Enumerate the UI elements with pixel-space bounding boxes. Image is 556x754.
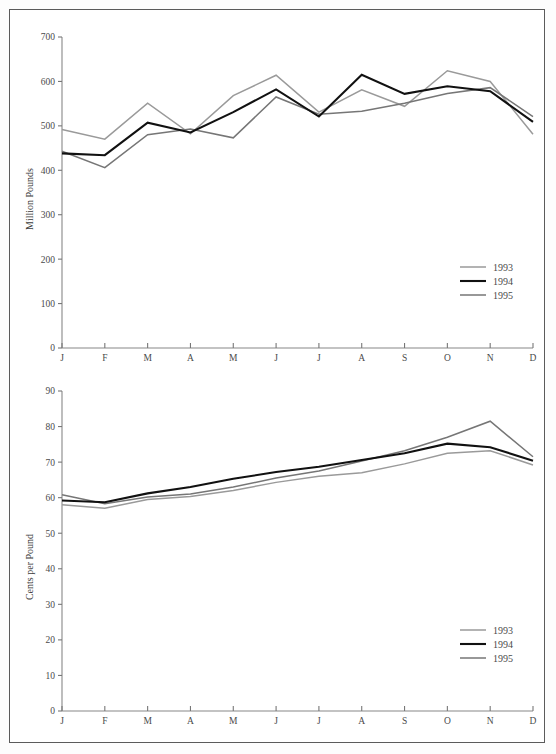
chart-panel-production: 0100200300400500600700JFMAMJJASONDMillio…: [0, 14, 556, 376]
x-axis-tick-label: S: [402, 353, 407, 363]
y-axis-tick-label: 20: [46, 635, 56, 645]
x-axis-tick-label: A: [358, 353, 365, 363]
y-axis-tick-label: 600: [41, 77, 56, 87]
y-axis-tick-label: 0: [50, 343, 55, 353]
y-axis-title: Cents per Pound: [24, 534, 35, 600]
x-axis-tick-label: M: [143, 716, 152, 726]
y-axis-tick-label: 50: [46, 529, 56, 539]
x-axis-tick-label: M: [229, 353, 238, 363]
chart-price-svg: 0102030405060708090JFMAMJJASONDCents per…: [0, 382, 556, 742]
series-line-1995: [62, 421, 533, 503]
y-axis-tick-label: 30: [46, 600, 56, 610]
x-axis-tick-label: O: [444, 716, 451, 726]
x-axis-tick-label: J: [60, 716, 64, 726]
x-axis-tick-label: S: [402, 716, 407, 726]
x-axis-tick-label: J: [274, 353, 278, 363]
x-axis-tick-label: D: [530, 353, 537, 363]
legend-label-1995: 1995: [493, 290, 513, 301]
x-axis-tick-label: N: [487, 353, 494, 363]
y-axis-tick-label: 80: [46, 422, 56, 432]
y-axis-tick-label: 90: [46, 386, 56, 396]
chart-production-svg: 0100200300400500600700JFMAMJJASONDMillio…: [0, 14, 556, 376]
y-axis-tick-label: 500: [41, 121, 56, 131]
x-axis-tick-label: F: [102, 353, 107, 363]
chart-panel-price: 0102030405060708090JFMAMJJASONDCents per…: [0, 382, 556, 742]
x-axis-tick-label: O: [444, 353, 451, 363]
y-axis-tick-label: 70: [46, 458, 56, 468]
legend-label-1993: 1993: [493, 262, 513, 273]
x-axis-tick-label: A: [187, 716, 194, 726]
x-axis-tick-label: N: [487, 716, 494, 726]
y-axis-tick-label: 400: [41, 166, 56, 176]
y-axis-tick-label: 40: [46, 564, 56, 574]
y-axis-tick-label: 60: [46, 493, 56, 503]
x-axis-tick-label: M: [229, 716, 238, 726]
x-axis-tick-label: A: [358, 716, 365, 726]
x-axis-tick-label: D: [530, 716, 537, 726]
x-axis-tick-label: J: [274, 716, 278, 726]
legend-label-1993: 1993: [493, 625, 513, 636]
x-axis-tick-label: J: [317, 716, 321, 726]
y-axis-tick-label: 300: [41, 210, 56, 220]
y-axis-tick-label: 200: [41, 255, 56, 265]
y-axis-tick-label: 0: [50, 706, 55, 716]
y-axis-title: Million Pounds: [24, 168, 35, 230]
y-axis-tick-label: 10: [46, 671, 56, 681]
y-axis-tick-label: 700: [41, 32, 56, 42]
x-axis-tick-label: M: [143, 353, 152, 363]
page-root: 0100200300400500600700JFMAMJJASONDMillio…: [0, 0, 556, 754]
legend-label-1994: 1994: [493, 639, 513, 650]
x-axis-tick-label: J: [60, 353, 64, 363]
series-line-1995: [62, 88, 533, 168]
x-axis-tick-label: A: [187, 353, 194, 363]
x-axis-tick-label: F: [102, 716, 107, 726]
legend-label-1994: 1994: [493, 276, 513, 287]
y-axis-tick-label: 100: [41, 299, 56, 309]
x-axis-tick-label: J: [317, 353, 321, 363]
legend-label-1995: 1995: [493, 653, 513, 664]
